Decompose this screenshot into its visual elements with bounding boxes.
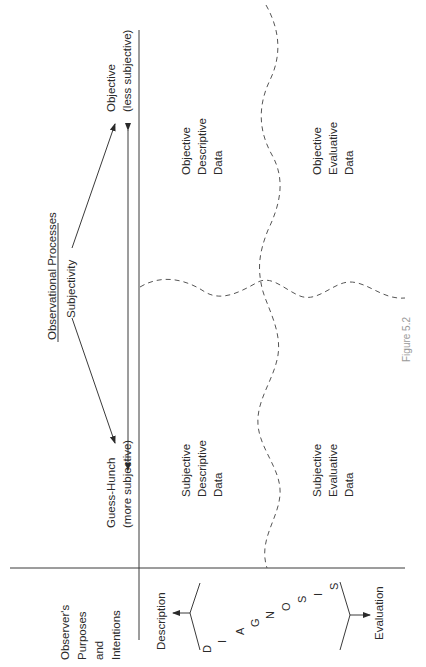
svg-text:G: G (249, 618, 261, 627)
header-title: Observational Processes (46, 212, 58, 342)
less-subjective-label: (less subjective) (121, 29, 133, 112)
svg-text:Objective: Objective (311, 127, 323, 175)
svg-text:Descriptive: Descriptive (196, 440, 208, 497)
objective-label: Objective (105, 64, 117, 112)
svg-text:Data: Data (212, 472, 224, 497)
svg-text:Subjective: Subjective (180, 444, 192, 497)
svg-text:Subjective: Subjective (311, 444, 323, 497)
evaluation-branch (340, 582, 370, 650)
svg-text:A: A (234, 627, 246, 635)
observational-processes-diagram: Observational Processes Subjectivity Gue… (0, 0, 426, 667)
arrow-to-guess-hunch-icon (72, 318, 115, 443)
svg-text:Evaluative: Evaluative (327, 122, 339, 175)
guess-hunch-label: Guess-Hunch (105, 458, 117, 528)
observers-label: Observer's (59, 605, 71, 660)
svg-text:S: S (296, 596, 308, 603)
description-branch (173, 583, 200, 650)
svg-text:S: S (328, 583, 340, 590)
purposes-label: Purposes (76, 611, 88, 660)
intentions-label: Intentions (110, 610, 122, 660)
svg-text:O: O (280, 602, 292, 611)
arrow-to-objective-icon (72, 124, 115, 248)
quadrant-subjective-descriptive: Subjective Descriptive Data (180, 440, 224, 497)
svg-text:Data: Data (343, 472, 355, 497)
and-label: and (93, 641, 105, 660)
svg-text:Data: Data (212, 150, 224, 175)
svg-text:Observational Processes: Observational Processes (46, 212, 58, 340)
quadrant-objective-descriptive: Objective Descriptive Data (180, 118, 224, 175)
svg-text:I: I (216, 640, 228, 643)
svg-text:Evaluative: Evaluative (327, 444, 339, 497)
svg-text:D: D (201, 645, 213, 653)
figure-caption: Figure 5.2 (401, 317, 412, 362)
dashed-boundary-horizontal (140, 279, 405, 298)
description-label: Description (155, 592, 167, 650)
svg-text:Descriptive: Descriptive (196, 118, 208, 175)
more-subjective-label: (more subjective) (121, 440, 133, 528)
svg-text:I: I (312, 593, 324, 596)
svg-text:N: N (264, 611, 276, 619)
dashed-boundary-vertical (258, 5, 280, 568)
svg-text:Objective: Objective (180, 127, 192, 175)
diagnosis-letters: D I A G N O S I S (201, 583, 340, 653)
evaluation-label: Evaluation (373, 586, 385, 640)
svg-text:Data: Data (343, 150, 355, 175)
quadrant-objective-evaluative: Objective Evaluative Data (311, 122, 355, 175)
quadrant-subjective-evaluative: Subjective Evaluative Data (311, 444, 355, 497)
subjectivity-label: Subjectivity (65, 260, 77, 318)
